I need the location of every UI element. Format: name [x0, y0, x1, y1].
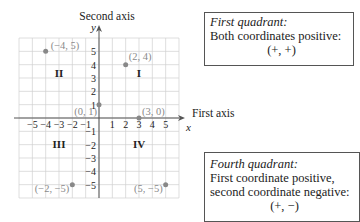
- y-tick-label: −4: [85, 166, 96, 177]
- x-tick-labels: −5−4−3−2−112345: [27, 119, 168, 130]
- point-marker: [70, 182, 75, 187]
- x-tick-label: 1: [110, 119, 115, 130]
- first-quadrant-callout: First quadrant: Both coordinates positiv…: [204, 12, 354, 66]
- point-label: (0, 1): [74, 106, 97, 118]
- x-tick-label: −4: [40, 119, 51, 130]
- x-tick-label: 4: [150, 119, 155, 130]
- y-symbol: y: [90, 21, 96, 33]
- quadrant-IV-label: IV: [133, 138, 145, 150]
- point-marker: [123, 62, 128, 67]
- x-tick-label: −3: [54, 119, 65, 130]
- x-tick-label: 5: [163, 119, 168, 130]
- callout-text: First coordinate positive,: [210, 171, 359, 185]
- x-tick-label: 3: [136, 119, 141, 130]
- point-marker: [43, 49, 48, 54]
- point-marker: [97, 102, 102, 107]
- y-tick-label: 4: [91, 60, 96, 71]
- point-label: (2, 4): [129, 51, 152, 63]
- y-tick-label: −1: [85, 126, 96, 137]
- quadrant-I-label: I: [137, 67, 141, 79]
- callout-text: Both coordinates positive:: [210, 29, 353, 43]
- y-tick-label: −2: [85, 140, 96, 151]
- second-axis-label: Second axis: [79, 10, 135, 22]
- quadrant-III-label: III: [53, 138, 66, 150]
- x-tick-label: −5: [27, 119, 38, 130]
- y-tick-label: 2: [91, 86, 96, 97]
- x-tick-label: 2: [123, 119, 128, 130]
- callout-title: Fourth quadrant:: [210, 157, 359, 171]
- callout-title: First quadrant:: [210, 15, 353, 29]
- y-tick-label: 3: [91, 73, 96, 84]
- y-tick-label: −5: [85, 180, 96, 191]
- callout-text-2: second coordinate negative:: [210, 185, 359, 199]
- x-tick-label: −2: [67, 119, 78, 130]
- x-symbol: x: [185, 121, 191, 133]
- first-axis-label: First axis: [192, 107, 235, 119]
- y-tick-label: −3: [85, 153, 96, 164]
- point-label: (−2, −5): [35, 183, 70, 195]
- quadrant-II-label: II: [55, 67, 64, 79]
- point-marker: [136, 116, 141, 121]
- callout-sign: (+, −): [210, 199, 359, 213]
- point-label: (3, 0): [142, 106, 165, 118]
- y-tick-label: 5: [91, 46, 96, 57]
- point-label: (5, −5): [134, 183, 163, 195]
- fourth-quadrant-callout: Fourth quadrant: First coordinate positi…: [204, 152, 360, 222]
- coordinate-plane: Second axis y x −5−4−3−2−112345 12345−1−…: [0, 0, 200, 222]
- point-label: (−4, 5): [51, 40, 80, 52]
- point-marker: [163, 182, 168, 187]
- callout-sign: (+, +): [210, 43, 353, 57]
